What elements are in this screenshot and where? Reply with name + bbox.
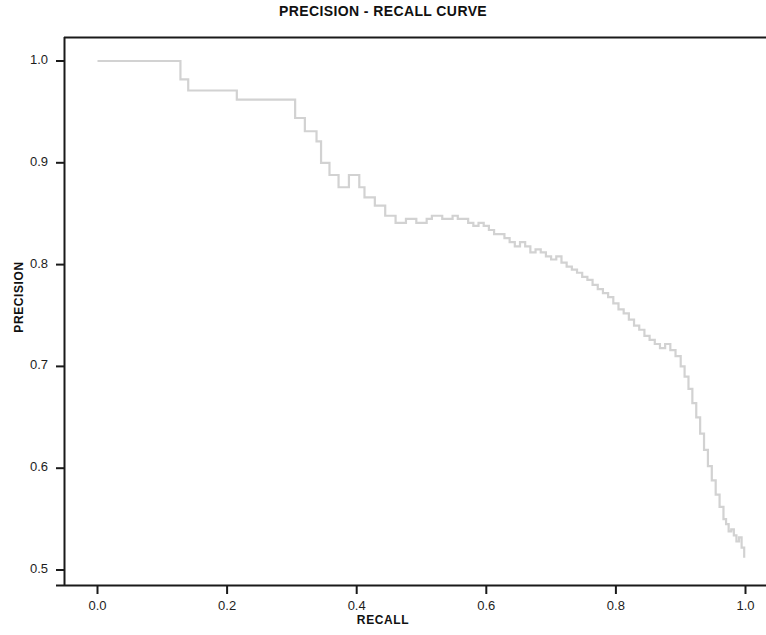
- x-axis-tick-label: 0.0: [74, 598, 122, 613]
- precision-recall-curve: [98, 61, 745, 558]
- x-axis-tick-label: 0.2: [203, 598, 251, 613]
- x-axis-tick-label: 0.8: [592, 598, 640, 613]
- x-axis-title: RECALL: [0, 613, 766, 627]
- y-axis-tick-label: 0.7: [8, 357, 48, 372]
- y-axis-tick-label: 0.9: [8, 154, 48, 169]
- y-axis-title: PRECISION: [12, 247, 26, 347]
- y-axis-tick-label: 0.6: [8, 459, 48, 474]
- x-axis-tick-label: 1.0: [722, 598, 766, 613]
- y-axis-tick-label: 1.0: [8, 52, 48, 67]
- y-axis-tick-label: 0.5: [8, 561, 48, 576]
- precision-recall-chart: PRECISION - RECALL CURVE 0.50.60.70.80.9…: [0, 0, 766, 635]
- x-axis-tick-label: 0.6: [462, 598, 510, 613]
- plot-area: [0, 0, 766, 635]
- axis-frame: [56, 37, 766, 586]
- y-axis-ticks: [56, 61, 64, 570]
- x-axis-tick-label: 0.4: [333, 598, 381, 613]
